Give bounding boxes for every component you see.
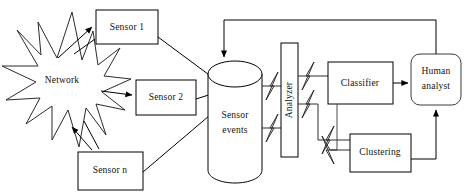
clustering-label: Clustering <box>359 147 401 157</box>
edge-clustering-to-analyst <box>411 110 436 159</box>
diagram-canvas: Network Sensor 1 Sensor 2 Sensor n <box>0 0 475 195</box>
edge-analyzer-split-lower <box>298 90 318 118</box>
edge-sensor1-to-events <box>158 37 216 80</box>
sensor-events-label-line2: events <box>222 125 248 135</box>
edge-analyzer-to-classifier <box>298 62 328 90</box>
human-analyst-label-line1: Human <box>422 66 451 76</box>
sensor-1-label: Sensor 1 <box>110 22 145 32</box>
sensor-1-node: Sensor 1 <box>96 10 158 44</box>
edge-events-to-analyzer-lower <box>262 114 281 142</box>
sensor-n-label: Sensor n <box>93 165 128 175</box>
sensor-events-label-line1: Sensor <box>221 110 249 120</box>
human-analyst-box <box>411 54 461 105</box>
human-analyst-label-line2: analyst <box>422 81 450 91</box>
classifier-node: Classifier <box>328 62 393 104</box>
clustering-node: Clustering <box>350 134 411 172</box>
network-label: Network <box>45 75 80 85</box>
edge-network-to-sensorn <box>84 121 99 149</box>
edge-analyst-feedback-to-events <box>224 20 436 57</box>
sensor-events-node: Sensor events <box>208 61 262 183</box>
analyzer-label: Analyzer <box>284 81 294 118</box>
human-analyst-node: Human analyst <box>411 54 461 105</box>
analyzer-node: Analyzer <box>281 43 298 157</box>
edge-sensorn-to-events <box>143 110 216 172</box>
classifier-label: Classifier <box>341 78 380 88</box>
network-intrusion-architecture-diagram: Network Sensor 1 Sensor 2 Sensor n <box>0 0 475 195</box>
edge-events-to-analyzer-upper <box>262 72 281 100</box>
sensor-2-label: Sensor 2 <box>149 92 184 102</box>
sensor-2-node: Sensor 2 <box>136 80 196 115</box>
sensor-events-cylinder-top <box>208 61 262 87</box>
sensor-n-node: Sensor n <box>78 152 143 190</box>
edge-branch-to-clustering-upper <box>318 104 350 154</box>
